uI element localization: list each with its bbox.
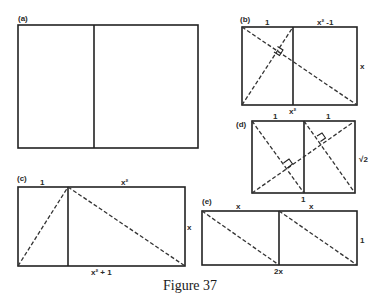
panel-d-label-top-right: 1 (326, 112, 331, 121)
figure-caption: Figure 37 (163, 278, 217, 293)
figure-37: (a) (b) 1 x² -1 x x² (d) 1 1 √2 1 (c) 1 … (0, 0, 381, 299)
panel-e-diagonal-right (279, 211, 357, 265)
panel-c-label-bottom: x² + 1 (91, 268, 112, 277)
panel-d-tag: (d) (236, 120, 247, 129)
panel-a-rectangle (18, 25, 198, 148)
panel-c-label-top-left: 1 (40, 178, 45, 187)
panel-a: (a) (18, 14, 198, 148)
panel-c-label-right: x (187, 223, 192, 232)
panel-b-label-bottom: x² (289, 107, 296, 116)
panel-d: (d) 1 1 √2 1 (236, 112, 368, 204)
panel-e-label-bottom: 2x (274, 267, 283, 276)
panel-d-right-angle-mark-2 (317, 133, 326, 142)
panel-a-tag: (a) (18, 14, 28, 23)
panel-b-label-top-right: x² -1 (317, 18, 334, 27)
panel-b-diagonal-short (242, 27, 293, 105)
panel-c-tag: (c) (17, 174, 27, 183)
panel-c: (c) 1 x² x x² + 1 (17, 174, 192, 277)
panel-d-diagonal-right (304, 121, 355, 193)
panel-b: (b) 1 x² -1 x x² (240, 15, 365, 116)
panel-e-tag: (e) (202, 197, 212, 206)
panel-c-label-top-right: x² (121, 178, 128, 187)
panel-d-label-top-left: 1 (273, 112, 278, 121)
panel-d-label-right: √2 (359, 155, 368, 164)
panel-b-label-top-left: 1 (265, 18, 270, 27)
panel-b-tag: (b) (240, 15, 251, 24)
panel-e-label-top-left: x (236, 202, 241, 211)
panel-d-label-bottom: 1 (301, 195, 306, 204)
panel-c-diagonal-right (68, 187, 185, 266)
panel-e-label-top-right: x (309, 202, 314, 211)
panel-c-diagonal-left (18, 187, 68, 266)
panel-e-diagonal-left (202, 211, 279, 265)
panel-b-label-right: x (360, 62, 365, 71)
panel-b-diagonal-long (242, 27, 357, 105)
panel-d-diagonal-left (252, 121, 304, 193)
panel-e-label-right: 1 (360, 236, 365, 245)
panel-e: (e) x x 1 2x (202, 197, 365, 276)
